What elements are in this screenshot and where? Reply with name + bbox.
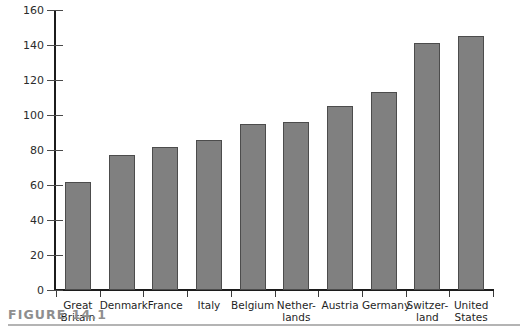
figure-caption-label: FIGURE 14.1 xyxy=(8,307,107,322)
y-axis-tick-value: 40 xyxy=(0,215,44,226)
y-axis-tick xyxy=(47,150,63,151)
y-axis-tick-value: 0 xyxy=(0,285,44,296)
y-axis-tick-label: 60 xyxy=(0,180,44,191)
figure-container: 020406080100120140160 GreatBritainDenmar… xyxy=(0,0,528,328)
bar-chart: 020406080100120140160 GreatBritainDenmar… xyxy=(0,0,528,300)
y-axis-tick-label: 100 xyxy=(0,110,44,121)
y-axis-tick-label: 0 xyxy=(0,285,44,296)
x-axis-tick xyxy=(100,291,101,297)
y-axis-tick-label: 40 xyxy=(0,215,44,226)
bar xyxy=(371,92,397,290)
bar xyxy=(65,182,91,291)
bar xyxy=(109,155,135,290)
bar xyxy=(414,43,440,290)
x-axis-tick xyxy=(187,291,188,297)
y-axis-tick-value: 20 xyxy=(0,250,44,261)
bar xyxy=(458,36,484,290)
x-axis-tick xyxy=(449,291,450,297)
y-axis-tick xyxy=(47,80,63,81)
bar xyxy=(283,122,309,290)
y-axis-tick-value: 140 xyxy=(0,40,44,51)
y-axis-tick-value: 80 xyxy=(0,145,44,156)
y-axis-tick xyxy=(47,115,63,116)
y-axis-tick xyxy=(47,45,63,46)
y-axis-tick-value: 160 xyxy=(0,5,44,16)
y-axis-tick xyxy=(47,10,63,11)
y-axis-tick xyxy=(47,185,63,186)
bar xyxy=(196,140,222,291)
x-axis-tick xyxy=(275,291,276,297)
y-axis-tick-label: 20 xyxy=(0,250,44,261)
y-axis-tick xyxy=(47,220,63,221)
x-axis-tick xyxy=(143,291,144,297)
y-axis-tick xyxy=(47,255,63,256)
y-axis-tick-label: 80 xyxy=(0,145,44,156)
x-axis-tick xyxy=(231,291,232,297)
bar xyxy=(327,106,353,290)
y-axis-tick-value: 100 xyxy=(0,110,44,121)
x-axis-tick xyxy=(406,291,407,297)
y-axis-tick-value: 120 xyxy=(0,75,44,86)
x-axis-tick xyxy=(56,291,57,297)
x-axis-tick xyxy=(493,291,494,297)
y-axis-tick xyxy=(47,290,63,291)
figure-caption-block: FIGURE 14.1 xyxy=(0,303,528,328)
bar xyxy=(240,124,266,290)
y-axis-tick-label: 120 xyxy=(0,75,44,86)
x-axis-tick xyxy=(362,291,363,297)
y-axis-tick-value: 60 xyxy=(0,180,44,191)
y-axis-tick-label: 160 xyxy=(0,5,44,16)
bar xyxy=(152,147,178,291)
caption-divider xyxy=(8,324,520,326)
y-axis-tick-label: 140 xyxy=(0,40,44,51)
x-axis-tick xyxy=(318,291,319,297)
